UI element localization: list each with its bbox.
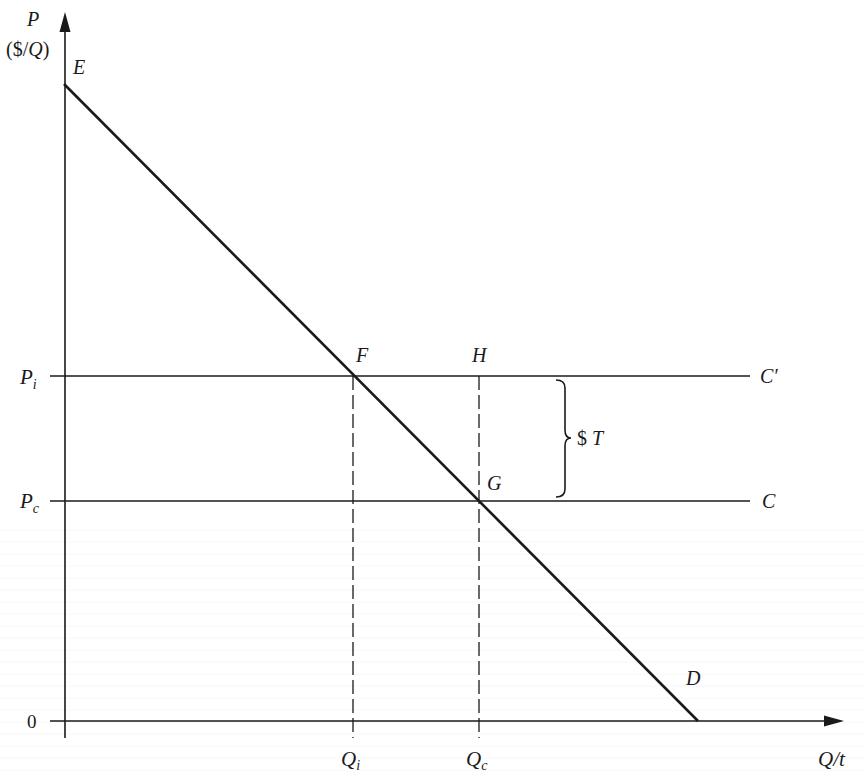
y-axis-label-units: ($/Q) bbox=[6, 38, 49, 61]
qi-sub: i bbox=[356, 758, 360, 773]
y-axis-label-p: P bbox=[26, 8, 39, 30]
pi-main: P bbox=[19, 365, 33, 389]
tax-dollar-sign: $ bbox=[577, 427, 587, 449]
x-axis bbox=[50, 716, 844, 727]
point-f-label: F bbox=[355, 344, 369, 366]
qi-main: Q bbox=[341, 747, 356, 771]
y-axis-arrowhead-icon bbox=[60, 12, 71, 32]
y-axis-units-open: ($/ bbox=[6, 38, 29, 61]
pc-main: P bbox=[19, 489, 33, 513]
x-axis-arrowhead-icon bbox=[824, 716, 844, 727]
x-axis-label: Q/t bbox=[818, 747, 846, 771]
point-d-label: D bbox=[685, 667, 701, 689]
c-prime-label: C′ bbox=[760, 365, 778, 387]
tax-symbol: T bbox=[592, 427, 605, 449]
pc-sub: c bbox=[33, 501, 40, 516]
price-label-pc: Pc bbox=[19, 489, 40, 516]
quantity-label-qi: Qi bbox=[341, 747, 360, 773]
y-axis-units-q: Q bbox=[28, 38, 43, 60]
pi-sub: i bbox=[33, 377, 37, 392]
y-axis bbox=[60, 12, 71, 738]
origin-label: 0 bbox=[27, 711, 37, 732]
point-e-label: E bbox=[72, 56, 85, 78]
qc-main: Q bbox=[466, 747, 481, 771]
point-g-label: G bbox=[487, 472, 502, 494]
point-h-label: H bbox=[471, 344, 488, 366]
qc-sub: c bbox=[481, 758, 488, 773]
quantity-label-qc: Qc bbox=[466, 747, 488, 773]
demand-curve bbox=[64, 84, 698, 721]
tax-brace-icon bbox=[556, 380, 571, 497]
price-label-pi: Pi bbox=[19, 365, 37, 392]
y-axis-units-close: ) bbox=[43, 38, 50, 61]
tax-label: $ T bbox=[577, 427, 605, 449]
c-label: C bbox=[762, 490, 776, 512]
tax-incidence-diagram: P ($/Q) Q/t 0 Pi Pc C′ C Qi Qc E F H G D… bbox=[0, 0, 864, 780]
